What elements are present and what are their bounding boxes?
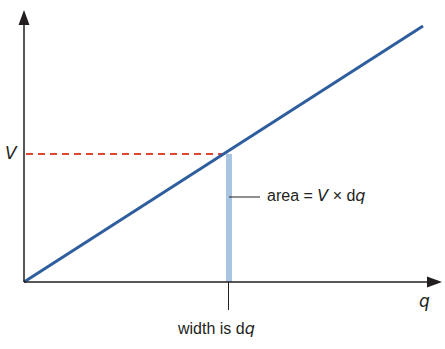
area-strip bbox=[226, 154, 232, 282]
x-axis-arrow-icon bbox=[427, 277, 442, 288]
width-label-q: q bbox=[245, 319, 255, 338]
y-level-label-v: V bbox=[5, 143, 17, 163]
diagram-canvas bbox=[0, 0, 445, 349]
area-label-q: q bbox=[355, 186, 365, 205]
width-label-prefix: width is d bbox=[178, 320, 245, 337]
area-label-times: × d bbox=[328, 187, 355, 204]
x-axis-label-q: q bbox=[419, 291, 430, 311]
v-q-line bbox=[24, 26, 423, 282]
y-axis-arrow-icon bbox=[19, 10, 30, 25]
area-label-prefix: area = bbox=[267, 187, 317, 204]
width-label: width is dq bbox=[178, 319, 255, 338]
area-label-v: V bbox=[317, 186, 328, 205]
area-label: area = V × dq bbox=[267, 186, 366, 205]
